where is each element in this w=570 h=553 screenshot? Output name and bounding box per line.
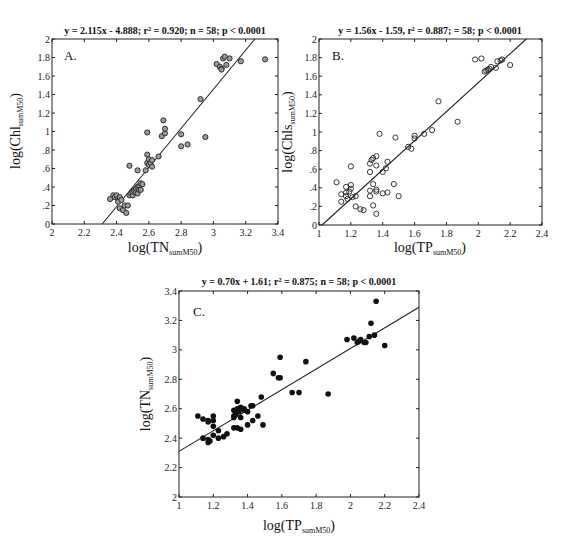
y-tick-label: 3.2 — [165, 315, 178, 326]
panel-b-title: y = 1.56x - 1.59, r² = 0.887; = 58; p < … — [338, 25, 521, 36]
panel-a-letter: A. — [64, 48, 77, 63]
y-tick-label: 3 — [172, 344, 177, 355]
x-tick-label: 3.2 — [239, 227, 252, 238]
data-point — [325, 391, 331, 397]
data-point — [135, 168, 140, 173]
data-point — [371, 203, 376, 208]
panel-c-letter: C. — [193, 304, 205, 319]
data-point — [179, 132, 184, 137]
panel-a-title: y = 2.115x - 4.888; r² = 0.920; n = 58; … — [64, 25, 266, 36]
panel-b-y-ticks: 0.2.4.6.811.21.41.61.82 — [305, 34, 543, 231]
data-point — [161, 118, 166, 123]
data-point — [372, 332, 378, 338]
x-tick-label: 2.2 — [378, 500, 391, 511]
data-point — [455, 119, 460, 124]
data-point — [234, 399, 240, 405]
x-tick-label: 2.4 — [413, 500, 426, 511]
y-tick-label: .2 — [43, 200, 51, 211]
x-tick-label: 1.6 — [276, 500, 289, 511]
data-point — [380, 191, 385, 196]
panel-c-y-axis-label: log(TNsumM50) — [138, 357, 155, 432]
data-point — [473, 57, 478, 62]
data-point — [245, 409, 251, 415]
data-point — [334, 180, 339, 185]
data-point — [368, 321, 374, 327]
x-tick-label: 2.2 — [78, 227, 91, 238]
x-tick-label: 1.8 — [310, 500, 323, 511]
data-point — [119, 197, 124, 202]
data-point — [429, 128, 434, 133]
data-point — [348, 164, 353, 169]
data-point — [125, 203, 130, 208]
panel-b-letter: B. — [332, 48, 344, 63]
y-tick-label: .4 — [310, 182, 318, 193]
data-point — [179, 144, 184, 149]
data-point — [255, 413, 261, 419]
panel-b-y-axis-label: log(ChlssumM50) — [280, 91, 297, 173]
x-tick-label: 1.2 — [345, 228, 358, 239]
y-tick-label: 2.2 — [165, 462, 178, 473]
data-point — [149, 158, 154, 163]
data-point — [289, 390, 295, 396]
data-point — [303, 359, 309, 365]
panel-c-x-axis-label: log(TPsumM50) — [263, 518, 335, 535]
x-tick-label: 1 — [317, 228, 322, 239]
y-tick-label: 2.8 — [165, 374, 178, 385]
data-point — [351, 335, 357, 341]
y-tick-label: 2.6 — [165, 403, 178, 414]
x-tick-label: 2 — [476, 228, 481, 239]
y-tick-label: 3.4 — [165, 286, 178, 297]
y-tick-label: 0 — [45, 219, 50, 230]
data-point — [143, 168, 148, 173]
data-point — [138, 187, 143, 192]
data-point — [385, 190, 390, 195]
data-point — [508, 62, 513, 67]
data-point — [393, 135, 398, 140]
data-point — [479, 56, 484, 61]
data-point — [436, 99, 441, 104]
data-point — [238, 427, 244, 433]
data-point — [396, 194, 401, 199]
y-tick-label: 1.2 — [305, 108, 318, 119]
x-tick-label: 3.4 — [272, 227, 285, 238]
data-point — [210, 424, 216, 430]
x-tick-label: 2.8 — [175, 227, 188, 238]
data-point — [198, 97, 203, 102]
data-point — [124, 210, 129, 215]
panel-c-data-points — [195, 299, 387, 446]
data-point — [224, 431, 230, 437]
data-point — [216, 428, 222, 434]
x-tick-label: 1 — [177, 500, 182, 511]
x-tick-label: 2.6 — [143, 227, 156, 238]
panel-a-x-ticks: 22.22.42.62.833.23.4 — [50, 39, 285, 238]
data-point — [382, 343, 388, 349]
x-tick-label: 1.4 — [241, 500, 254, 511]
y-tick-label: 1.4 — [305, 89, 318, 100]
data-point — [373, 299, 379, 305]
x-tick-label: 1.8 — [440, 228, 453, 239]
y-tick-label: 1.8 — [38, 52, 51, 63]
data-point — [385, 159, 390, 164]
data-point — [127, 163, 132, 168]
panel-a-y-axis-label: log(ChlsumM50) — [8, 93, 25, 169]
y-tick-label: .4 — [43, 182, 51, 193]
panel-b-data-points — [334, 56, 513, 217]
data-point — [216, 435, 222, 441]
data-point — [391, 181, 396, 186]
data-point — [296, 390, 302, 396]
data-point — [371, 181, 376, 186]
y-tick-label: 1.8 — [305, 52, 318, 63]
data-point — [207, 438, 213, 444]
data-point — [149, 164, 154, 169]
panel-a-data-points — [108, 54, 268, 216]
panel-b-x-axis-label: log(TPsumM50) — [394, 240, 466, 257]
panel-a-x-axis-label: log(TNsumM50) — [128, 240, 203, 257]
x-tick-label: 2.2 — [504, 228, 517, 239]
data-point — [238, 415, 244, 421]
y-tick-label: .8 — [43, 145, 51, 156]
data-point — [195, 413, 201, 419]
data-point — [358, 207, 363, 212]
x-tick-label: 2.4 — [536, 228, 549, 239]
panel-b-scatter: y = 1.56x - 1.59, r² = 0.887; = 58; p < … — [280, 25, 548, 257]
panel-c-title: y = 0.70x + 1.61; r² = 0.875; n = 58; p … — [202, 276, 397, 287]
